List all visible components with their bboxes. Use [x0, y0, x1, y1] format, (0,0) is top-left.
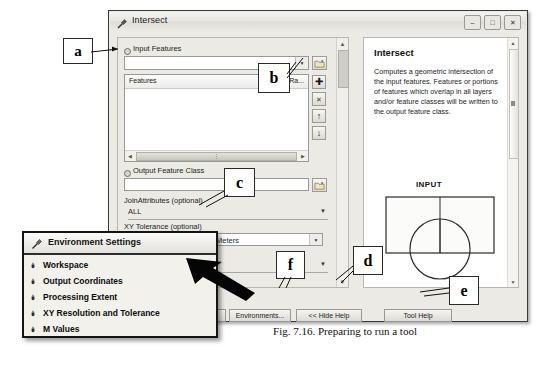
close-button[interactable]: ✕: [504, 15, 521, 30]
add-feature-button[interactable]: ✚: [312, 75, 326, 89]
help-panel: Intersect Computes a geometric intersect…: [363, 37, 519, 288]
env-item-label: XY Resolution and Tolerance: [43, 308, 160, 318]
browse-output-feature-class-button[interactable]: [312, 178, 327, 192]
parameters-scroll-thumb[interactable]: [338, 50, 349, 88]
folder-open-icon: [314, 180, 325, 191]
arrow-up-icon: ↑: [317, 112, 322, 121]
help-scroll-up-arrow-icon[interactable]: ▲: [508, 38, 518, 48]
join-attributes-combo[interactable]: ALL ▼: [128, 207, 328, 220]
env-item-label: M Values: [43, 324, 79, 334]
hscroll-thumb[interactable]: ⋮: [136, 152, 297, 161]
help-scroll-down-arrow-icon[interactable]: ▼: [508, 277, 518, 287]
arrow-down-icon: ↓: [317, 129, 322, 138]
chevron-down-icon[interactable]: ▼: [295, 57, 308, 69]
xy-tolerance-units-value: Meters: [216, 236, 239, 245]
env-item-label: Processing Extent: [43, 292, 117, 302]
callout-d: d: [353, 246, 383, 275]
ranks-column-header: Ra...: [289, 77, 304, 84]
input-features-label: Input Features: [133, 44, 181, 53]
callout-b-letter: b: [270, 69, 279, 87]
figure-root: Intersect – □ ✕ Input Features ▼: [0, 0, 546, 370]
environment-settings-list: ↡ Workspace ↡ Output Coordinates ↡ Proce…: [24, 255, 216, 336]
scroll-down-arrow-icon[interactable]: ▼: [337, 276, 348, 287]
title-bar[interactable]: Intersect – □ ✕: [110, 12, 526, 32]
scroll-left-arrow-icon[interactable]: ◀: [125, 151, 135, 160]
callout-e-letter: e: [460, 282, 467, 300]
window-controls: – □ ✕: [464, 15, 521, 30]
environment-settings-title: Environment Settings: [48, 237, 141, 247]
join-attributes-value: ALL: [128, 207, 141, 216]
environment-settings-titlebar[interactable]: Environment Settings: [24, 233, 216, 255]
browse-input-features-button[interactable]: [312, 56, 327, 70]
env-item-xy-resolution-and-tolerance[interactable]: ↡ XY Resolution and Tolerance: [30, 308, 216, 324]
callout-f-letter: f: [288, 256, 293, 274]
move-down-button[interactable]: ↓: [312, 126, 326, 140]
environments-button-label: Environments...: [236, 312, 285, 319]
help-vscrollbar[interactable]: ▲ ▼: [507, 38, 518, 287]
plus-icon: ✚: [315, 77, 323, 87]
callout-c: c: [224, 168, 255, 197]
help-scroll-grip: [511, 101, 515, 106]
features-list-hscrollbar[interactable]: ◀ ▶ ⋮: [125, 150, 308, 161]
chevron-expand-icon: ↡: [30, 278, 36, 286]
environments-button[interactable]: Environments...: [229, 309, 291, 322]
scroll-up-arrow-icon[interactable]: ▲: [337, 38, 348, 49]
tool-help-button-label: Tool Help: [403, 312, 432, 319]
env-item-m-values[interactable]: ↡ M Values: [30, 324, 216, 340]
chevron-expand-icon: ↡: [30, 310, 36, 318]
move-up-button[interactable]: ↑: [312, 109, 326, 123]
env-item-label: Workspace: [43, 260, 88, 270]
callout-a: a: [63, 38, 93, 64]
folder-open-icon: [314, 58, 325, 69]
minimize-button[interactable]: –: [464, 15, 481, 30]
chevron-down-icon[interactable]: ▼: [309, 234, 322, 245]
window-title: Intersect: [132, 15, 167, 25]
help-title: Intersect: [374, 47, 499, 58]
join-attributes-label: JoinAttributes (optional): [124, 196, 203, 205]
help-body: Computes a geometric intersection of the…: [374, 67, 499, 117]
xy-tolerance-label: XY Tolerance (optional): [124, 222, 202, 231]
environment-settings-window: Environment Settings ↡ Workspace ↡ Outpu…: [22, 231, 218, 338]
callout-c-letter: c: [236, 174, 243, 192]
chevron-expand-icon: ↡: [30, 262, 36, 270]
figure-caption: Fig. 7.16. Preparing to run a tool: [215, 325, 475, 337]
parameters-vscrollbar[interactable]: ▲ ▼: [336, 38, 348, 287]
output-feature-class-input[interactable]: [124, 178, 309, 191]
callout-a-letter: a: [74, 43, 82, 60]
diagram-input-label: INPUT: [416, 180, 442, 189]
remove-feature-button[interactable]: ✕: [312, 92, 326, 106]
maximize-button[interactable]: □: [484, 15, 501, 30]
env-item-processing-extent[interactable]: ↡ Processing Extent: [30, 292, 216, 308]
hammer-tool-icon: [116, 16, 128, 28]
chevron-down-icon[interactable]: ▼: [320, 261, 326, 267]
tool-help-button[interactable]: Tool Help: [384, 309, 452, 322]
callout-e: e: [449, 276, 479, 305]
features-column-header: Features: [129, 77, 157, 84]
intersect-diagram: [378, 191, 504, 283]
env-item-output-coordinates[interactable]: ↡ Output Coordinates: [30, 276, 216, 292]
chevron-down-icon[interactable]: ▼: [320, 208, 326, 214]
callout-d-letter: d: [364, 252, 373, 270]
xy-tolerance-units-combo[interactable]: Meters ▼: [213, 233, 323, 246]
gear-tool-icon: [30, 237, 43, 250]
callout-f: f: [276, 251, 305, 279]
hide-help-button-label: << Hide Help: [309, 312, 350, 319]
chevron-expand-icon: ↡: [30, 326, 36, 334]
x-icon: ✕: [316, 96, 322, 103]
input-features-required-dot: [124, 48, 131, 55]
env-item-workspace[interactable]: ↡ Workspace: [30, 260, 216, 276]
output-feature-class-required-dot: [124, 170, 131, 177]
output-feature-class-label: Output Feature Class: [133, 166, 204, 175]
callout-b: b: [258, 63, 290, 93]
scroll-right-arrow-icon[interactable]: ▶: [298, 151, 308, 160]
env-item-label: Output Coordinates: [43, 276, 123, 286]
chevron-expand-icon: ↡: [30, 294, 36, 302]
hide-help-button[interactable]: << Hide Help: [296, 309, 362, 322]
